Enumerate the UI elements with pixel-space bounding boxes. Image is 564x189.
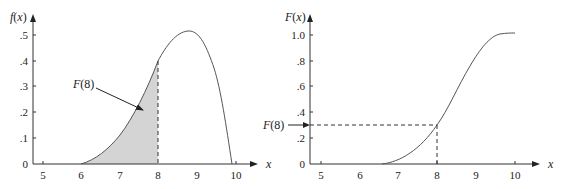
x-tick-label: 6 <box>357 169 363 181</box>
x-axis-arrow-icon <box>532 161 540 167</box>
annotation-F8: F(8) <box>72 77 94 91</box>
x-tick-label: 10 <box>231 169 243 181</box>
annotation-F8: F(8) <box>262 118 284 132</box>
x-tick-label: 7 <box>117 169 123 181</box>
annotation-arrow-icon <box>96 88 143 110</box>
x-tick-label: 8 <box>155 169 161 181</box>
y-tick-label: 1.0 <box>291 29 305 41</box>
y-axis-arrow-icon <box>307 14 313 22</box>
cdf-F8-annotation: F(8) <box>262 110 322 140</box>
x-tick-label: 10 <box>510 169 522 181</box>
x-axis-label: x <box>265 157 272 171</box>
x-tick-label: 9 <box>473 169 479 181</box>
y-tick-label: .8 <box>297 55 306 67</box>
y-axis-arrow-icon <box>30 14 36 22</box>
x-tick-label: 5 <box>318 169 324 181</box>
y-tick-label: 0 <box>300 158 306 170</box>
x-tick-label: 9 <box>194 169 200 181</box>
x-tick-label: 7 <box>395 169 401 181</box>
y-tick-label: 0 <box>23 158 29 170</box>
y-tick-label: .3 <box>20 80 29 92</box>
x-axis-arrow-icon <box>250 161 258 167</box>
y-tick-label: .1 <box>20 132 28 144</box>
x-tick-label: 8 <box>434 169 440 181</box>
cdf-chart: 0 .2 .4 .6 .8 1.0 5 6 7 8 9 10 F(x) x <box>282 0 564 189</box>
x-tick-label: 5 <box>40 169 46 181</box>
x-axis-label: x <box>547 157 554 171</box>
y-axis-label: f(x) <box>10 10 27 24</box>
y-axis-label: F(x) <box>284 10 306 24</box>
y-tick-label: .6 <box>297 80 306 92</box>
y-tick-label: .2 <box>20 106 28 118</box>
y-tick-label: .5 <box>20 29 29 41</box>
pdf-chart: 0 .1 .2 .3 .4 .5 5 6 7 8 9 10 f(x) x F(8… <box>0 0 282 189</box>
cdf-curve <box>382 33 515 164</box>
y-tick-label: .4 <box>20 55 29 67</box>
x-tick-label: 6 <box>78 169 84 181</box>
